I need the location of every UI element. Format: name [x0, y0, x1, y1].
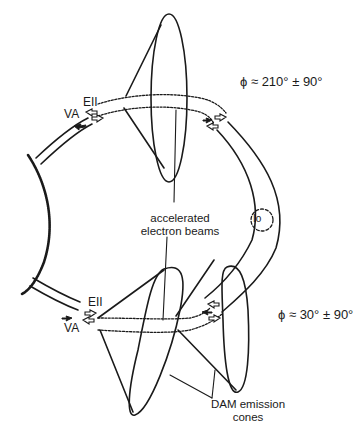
lower-beam-top: [98, 308, 210, 319]
jupiter-limb: [22, 155, 50, 294]
ep-bottom-label: EII: [88, 296, 103, 308]
upper-beam-bottom: [98, 107, 214, 124]
lower-right-arrow-1: [208, 301, 219, 308]
ep-top-sub: II: [91, 95, 98, 109]
upper-cone-edge-bottom: [124, 108, 164, 168]
ep-top-main: E: [83, 95, 91, 109]
upper-right-arrow-2: [207, 123, 218, 130]
lower-cone-1-edge-bottom: [100, 330, 133, 412]
ep-top-label: EII: [83, 96, 98, 108]
dam-label: DAM emission cones: [198, 398, 298, 424]
beams-pointer-up: [174, 110, 176, 202]
ep-bottom-sub: II: [96, 295, 103, 309]
lower-right-va-arrow: [202, 310, 212, 315]
io-label: Io: [253, 214, 261, 224]
va-top-sub: A: [71, 107, 79, 121]
lower-e-parallel-arrow-2: [83, 317, 94, 324]
dam-pointer-1: [170, 375, 212, 398]
dam-label-line2: cones: [198, 411, 298, 424]
beams-label-line2: electron beams: [137, 225, 223, 238]
lower-cone-1-edge-top: [98, 270, 164, 318]
upper-e-parallel-arrow-1: [86, 109, 97, 116]
lower-cone-2-rim: [222, 266, 249, 392]
ep-bottom-main: E: [88, 295, 96, 309]
va-bottom-sub: A: [71, 321, 79, 335]
phi-south-label: ϕ ≈ 30° ± 90°: [278, 308, 353, 321]
upper-flux-tube-inner: [41, 124, 92, 164]
lower-beam-bottom: [98, 314, 222, 332]
lower-right-arrow-2: [209, 315, 220, 322]
upper-beam-top: [98, 95, 226, 113]
phi-north-label: ϕ ≈ 210° ± 90°: [240, 75, 323, 88]
upper-e-parallel-arrow-2: [92, 115, 103, 122]
upper-right-arrow-1: [215, 114, 226, 121]
upper-cone-edge-top: [126, 25, 161, 96]
lower-flux-tube-outer: [33, 278, 80, 302]
beams-pointer-down: [163, 237, 167, 320]
dam-pointer-2: [212, 370, 215, 398]
lower-cone-2-edge-bottom: [178, 330, 236, 390]
beams-label: accelerated electron beams: [137, 212, 223, 238]
va-top-label: VA: [64, 108, 79, 120]
lower-e-parallel-arrow-1: [85, 310, 96, 317]
dam-label-line1: DAM emission: [198, 398, 298, 411]
lower-cone-2-edge-top: [176, 260, 214, 316]
va-bottom-label: VA: [64, 322, 79, 334]
beams-label-line1: accelerated: [137, 212, 223, 225]
